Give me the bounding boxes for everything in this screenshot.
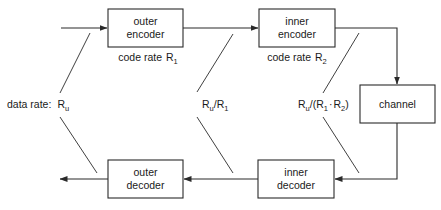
outer-decoder-block: outer decoder [108, 160, 183, 198]
channel-block: channel [360, 85, 435, 123]
rate-line-middle-bottom [197, 117, 233, 173]
inner-encoder-line2: encoder [278, 28, 316, 40]
inner-encoder-block: inner encoder [259, 9, 335, 47]
rate-line-input-bottom [60, 117, 97, 173]
outer-decoder-line2: decoder [127, 179, 165, 191]
input-data-rate-label: data rate:Ru [7, 98, 69, 113]
rate-line-input-top [60, 33, 90, 93]
outer-code-rate-label: code rateR1 [118, 51, 178, 66]
inner-code-rate-label: code rateR2 [267, 51, 327, 66]
concatenated-coding-diagram: outer encoder code rateR1 inner encoder … [0, 0, 441, 210]
inner-decoder-line1: inner [284, 166, 308, 178]
rate-line-middle-top [197, 34, 233, 92]
channel-to-inner-decoder-arrow [335, 123, 397, 179]
outer-encoder-line1: outer [134, 15, 158, 27]
channel-data-rate-label: Ru/(R1·R2) [298, 98, 349, 113]
inner-encoder-to-channel-arrow [335, 28, 397, 84]
inner-decoder-line2: decoder [277, 179, 315, 191]
channel-label: channel [379, 98, 416, 110]
intermediate-data-rate-label: Ru/R1 [202, 98, 228, 113]
outer-encoder-line2: encoder [127, 28, 165, 40]
inner-decoder-block: inner decoder [258, 160, 334, 198]
outer-decoder-line1: outer [134, 166, 158, 178]
outer-encoder-block: outer encoder [108, 9, 183, 47]
inner-encoder-line1: inner [285, 15, 309, 27]
